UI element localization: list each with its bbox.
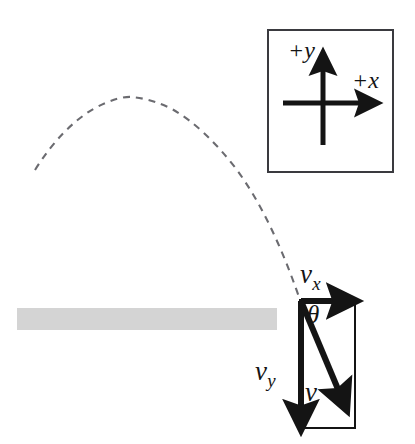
vy-label: vy xyxy=(255,358,276,391)
vx-label: vx xyxy=(300,261,321,294)
theta-angle-label: θ xyxy=(307,302,319,327)
figure-canvas: vx vy v θ +y +x xyxy=(0,0,415,444)
plus-x-axis-label: +x xyxy=(352,68,379,92)
v-resultant-label: v xyxy=(305,379,317,406)
plus-y-axis-label: +y xyxy=(288,38,315,62)
trajectory-path xyxy=(35,97,300,300)
ground-bar xyxy=(17,308,277,330)
